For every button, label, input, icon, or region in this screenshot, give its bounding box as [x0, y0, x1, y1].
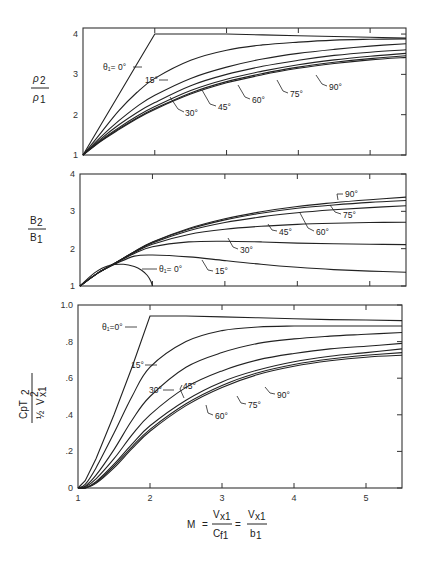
y-tick-label: 0: [68, 483, 73, 493]
leader-60: [238, 85, 250, 99]
label-90: 90°: [345, 189, 358, 199]
chart-figure: 1234 ρ 2 ρ 1 θ₁= 0° 15° 30° 45° 60° 75° …: [0, 0, 426, 561]
xlabel-den2-sub: 1: [256, 530, 262, 541]
label-45: 45°: [218, 102, 231, 112]
ylabel-den-half: ½: [35, 410, 46, 419]
panel-bottom-curves: [78, 316, 402, 488]
curve-60: [83, 53, 406, 155]
leader-90: [316, 75, 327, 86]
xlabel-eq1: =: [202, 519, 208, 530]
y-tick-label: 1: [73, 150, 78, 160]
label-15: 15°: [215, 266, 228, 276]
leader-90: [337, 194, 343, 200]
y-tick-label: .8: [65, 337, 73, 347]
curve-30: [83, 44, 406, 155]
xlabel-num1-sub: x1: [220, 511, 231, 522]
curve-15: [78, 326, 402, 488]
panel-middle: 1234 B 2 B 1 θ₁= 0° 15° 30° 45° 60° 75° …: [28, 169, 406, 291]
label-90: 90°: [277, 390, 290, 400]
xlabel-eq2: =: [235, 519, 241, 530]
xlabel-den1-sub: f1: [220, 530, 229, 541]
xlabel-num2: V: [248, 509, 255, 520]
curve-60: [78, 349, 402, 489]
ylabel-den-sub: 1: [37, 234, 43, 245]
ylabel-den: ρ: [32, 92, 39, 103]
ylabel-den: B: [30, 232, 37, 243]
y-tick-label: 2: [70, 244, 75, 254]
ylabel-den: V: [35, 398, 46, 405]
xlabel-num1: V: [213, 509, 220, 520]
label-75: 75°: [290, 89, 303, 99]
y-tick-label: 4: [70, 169, 75, 179]
curve-90: [83, 57, 406, 155]
label-60: 60°: [316, 227, 329, 237]
x-tick-label: 5: [363, 493, 368, 503]
y-tick-label: .2: [65, 446, 73, 456]
curve-15: [80, 255, 406, 286]
y-tick-label: 2: [73, 110, 78, 120]
curve-45: [83, 50, 406, 155]
label-90: 90°: [329, 82, 342, 92]
curve-75: [83, 56, 406, 155]
panel-bottom-ylabel: CpT 2 ½ V 2 x1: [18, 373, 48, 423]
leader-75: [277, 80, 288, 93]
label-15: 15°: [145, 75, 158, 85]
leader-45: [202, 90, 216, 106]
x-tick-label: 4: [291, 493, 296, 503]
y-tick-label: 3: [73, 69, 78, 79]
label-theta0: θ₁= 0°: [159, 264, 182, 274]
x-axis-label: M = V x1 C f1 = V x1 b 1: [187, 509, 267, 541]
y-tick-label: .4: [65, 410, 73, 420]
leader-60: [300, 213, 314, 231]
x-tick-label: 1: [75, 493, 80, 503]
label-30: 30°: [185, 108, 198, 118]
curve-45: [78, 343, 402, 488]
curve-75: [80, 201, 406, 287]
y-tick-label: 1.0: [60, 300, 73, 310]
label-45: 45°: [183, 381, 196, 391]
curve-10: [80, 264, 152, 286]
x-tick-label: 3: [219, 493, 224, 503]
panel-top-curves: [83, 34, 406, 155]
leader-60: [206, 405, 213, 415]
y-tick-label: 4: [73, 29, 78, 39]
label-15: 15°: [131, 360, 144, 370]
label-theta0: θ₁= 0°: [103, 62, 126, 72]
ylabel-num: CpT: [18, 400, 29, 419]
panel-middle-curves: [80, 197, 406, 286]
y-tick-label: 3: [70, 206, 75, 216]
y-tick-label: 1: [70, 281, 75, 291]
ylabel-den-sub: x1: [37, 386, 48, 397]
panel-bottom: 0.2.4.6.81.012345 CpT 2 ½ V 2 x1 θ₁=0° 1…: [18, 300, 402, 503]
label-75: 75°: [248, 400, 261, 410]
panel-top: 1234 ρ 2 ρ 1 θ₁= 0° 15° 30° 45° 60° 75° …: [31, 28, 406, 160]
panel-bottom-frame: [78, 305, 402, 488]
panel-middle-ticks: 1234: [70, 169, 406, 291]
label-75: 75°: [343, 210, 356, 220]
xlabel-num2-sub: x1: [255, 511, 266, 522]
leader-30: [228, 238, 238, 249]
label-30: 30°: [149, 385, 162, 395]
label-45: 45°: [279, 227, 292, 237]
leader-90: [265, 387, 275, 394]
ylabel-num-sub: 2: [37, 217, 43, 228]
ylabel-num: B: [30, 215, 37, 226]
curve-10: [83, 34, 406, 155]
label-theta0: θ₁=0°: [102, 322, 123, 332]
ylabel-den-sub: 1: [40, 94, 46, 105]
label-60: 60°: [215, 411, 228, 421]
ylabel-num-sub: 2: [40, 75, 46, 86]
label-30: 30°: [240, 245, 253, 255]
curve-30: [78, 333, 402, 489]
ylabel-num: ρ: [32, 73, 39, 84]
panel-top-ylabel: ρ 2 ρ 1: [31, 73, 49, 105]
curve-15: [83, 39, 406, 155]
y-tick-label: .6: [65, 373, 73, 383]
leader-15: [202, 260, 213, 271]
curve-75: [78, 353, 402, 489]
panel-middle-ylabel: B 2 B 1: [28, 215, 46, 245]
label-60: 60°: [252, 95, 265, 105]
xlabel-M: M: [187, 519, 195, 530]
leader-75: [237, 396, 246, 404]
x-tick-label: 2: [147, 493, 152, 503]
